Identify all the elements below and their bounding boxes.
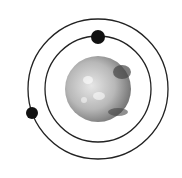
orbit-diagram: Planet with two orbiting satellites xyxy=(0,0,182,178)
outer-satellite xyxy=(26,107,38,119)
inner-satellite xyxy=(91,30,105,44)
planet xyxy=(65,56,131,122)
diagram-canvas xyxy=(0,0,182,178)
